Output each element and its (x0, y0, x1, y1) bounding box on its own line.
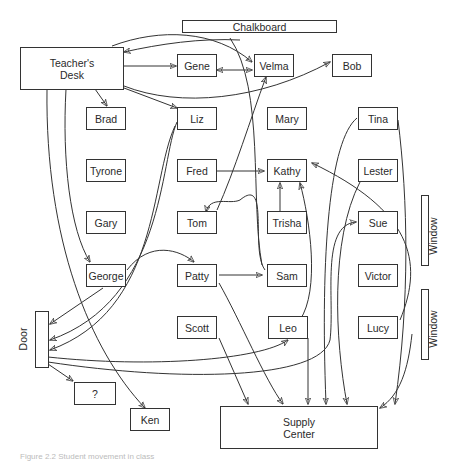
student-label: Sam (276, 270, 298, 282)
student-bob: Bob (332, 54, 372, 77)
student-label: Lucy (367, 322, 389, 334)
student-label: Tom (187, 217, 207, 229)
student-george: George (86, 264, 126, 287)
student-gary: Gary (86, 211, 126, 234)
student-lester: Lester (358, 159, 398, 182)
teachers-desk: Teacher's Desk (20, 47, 124, 90)
student-label: Mary (275, 113, 298, 125)
supply-center-label: Supply Center (274, 416, 324, 440)
student-victor: Victor (358, 264, 398, 287)
student-label: Bob (343, 60, 362, 72)
student-tom: Tom (177, 211, 217, 234)
student-label: Kathy (274, 165, 301, 177)
student-scott: Scott (177, 316, 217, 339)
student-label: Scott (185, 322, 209, 334)
student-label: Tyrone (90, 165, 122, 177)
student-label: Velma (259, 60, 288, 72)
student-ken: Ken (130, 408, 170, 431)
student-label: Leo (279, 322, 297, 334)
student-gene: Gene (177, 54, 217, 77)
student-label: Ken (141, 414, 160, 426)
window-lower-label: Window (427, 310, 439, 347)
student-label: Patty (185, 270, 209, 282)
student-tina: Tina (358, 107, 398, 130)
student-label: Fred (186, 165, 208, 177)
student-fred: Fred (177, 159, 217, 182)
chalkboard-label: Chalkboard (233, 21, 287, 33)
student-kathy: Kathy (267, 159, 307, 182)
door-label: Door (17, 328, 29, 351)
chalkboard: Chalkboard (182, 20, 337, 33)
supply-center: Supply Center (220, 406, 378, 449)
student-label: Brad (95, 113, 117, 125)
student-mary: Mary (267, 107, 307, 130)
student-label: Gary (95, 217, 118, 229)
student-velma: Velma (254, 54, 294, 77)
student-lucy: Lucy (358, 316, 398, 339)
window-upper-label: Window (427, 217, 439, 254)
student-leo: Leo (268, 316, 308, 339)
student-label: George (88, 270, 123, 282)
student-label: Gene (184, 60, 210, 72)
student-patty: Patty (177, 264, 217, 287)
student-liz: Liz (177, 107, 217, 130)
student-label: Liz (190, 113, 203, 125)
unknown-box: ? (74, 382, 116, 405)
student-label: Trisha (273, 217, 302, 229)
unknown-label: ? (92, 388, 98, 400)
student-tyrone: Tyrone (86, 159, 126, 182)
classroom-diagram: Chalkboard Teacher's Desk Door Window Wi… (0, 0, 458, 466)
teachers-desk-label: Teacher's Desk (42, 57, 102, 81)
student-sue: Sue (358, 211, 398, 234)
door (35, 311, 49, 368)
student-label: Lester (363, 165, 392, 177)
student-label: Tina (368, 113, 388, 125)
student-sam: Sam (267, 264, 307, 287)
student-brad: Brad (86, 107, 126, 130)
student-label: Victor (365, 270, 392, 282)
student-trisha: Trisha (267, 211, 307, 234)
figure-caption: Figure 2.2 Student movement in class (20, 452, 154, 461)
student-label: Sue (369, 217, 388, 229)
